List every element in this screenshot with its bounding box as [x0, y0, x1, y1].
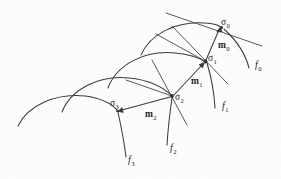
label-sigma-2: σ2 [175, 93, 183, 103]
junction-dot-sigma-2 [170, 94, 174, 98]
label-f-3: f3 [128, 155, 134, 165]
label-f-2: f2 [170, 143, 176, 153]
diagram-svg [0, 0, 281, 179]
label-f-1: f1 [222, 101, 228, 111]
junction-dot-sigma-3 [116, 110, 119, 113]
label-sigma-0: σ0 [221, 18, 229, 28]
label-f-0: f0 [255, 60, 261, 70]
junction-dot-sigma-1 [204, 60, 208, 64]
curve-f2 [167, 98, 172, 145]
label-m-0: m0 [218, 41, 229, 51]
label-sigma-1: σ1 [208, 54, 216, 64]
curve-f3 [118, 112, 126, 157]
label-sigma-3: σ3 [110, 99, 118, 109]
arc-3 [18, 96, 118, 126]
label-m-1: m1 [191, 77, 202, 87]
tangent-line-sigma-1-b [156, 34, 205, 61]
figure-canvas: σ0 σ1 σ2 σ3 m0 m1 m2 f0 f1 f2 f3 [0, 0, 281, 179]
paper-grain-texture [0, 0, 281, 179]
tangent-line-sigma-1-a [172, 26, 228, 84]
label-m-2: m2 [145, 110, 156, 120]
